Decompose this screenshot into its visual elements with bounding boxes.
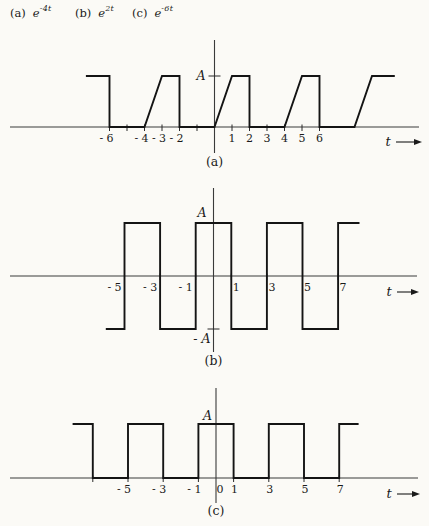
x-tick-label: 7 [337,483,344,496]
chart-a: A- 6- 4- 3- 2123456(a)t [10,40,422,169]
x-tick-label: 5 [304,281,311,294]
chart-b: A- A- 5- 3- 11357(b)t [10,188,419,368]
x-tick-label: 5 [302,483,309,496]
x-tick-label: 4 [281,132,288,145]
y-tick-label: - A [193,331,210,346]
x-axis-label: t [385,134,391,149]
chart-caption: (c) [208,503,225,518]
x-tick-label: - 3 [152,483,166,496]
x-axis-label: t [386,284,392,299]
y-tick-label: A [202,408,212,423]
x-tick-label: - 3 [143,281,157,294]
x-tick-label: 3 [266,483,273,496]
x-tick-label: - 3 [152,132,166,145]
x-axis-label: t [386,486,392,501]
x-tick-label: 0 [217,483,224,496]
chart-caption: (b) [205,353,223,368]
x-tick-label: 1 [233,281,240,294]
t-axis-arrowhead-icon [412,491,420,497]
x-tick-label: - 2 [169,132,183,145]
x-tick-label: - 1 [187,483,201,496]
t-axis-arrowhead-icon [414,139,422,145]
x-tick-label: 5 [299,132,306,145]
x-tick-label: 7 [340,281,347,294]
x-tick-label: - 4 [134,132,148,145]
waveform-charts: A- 6- 4- 3- 2123456(a)tA- A- 5- 3- 11357… [0,0,429,526]
x-tick-label: 2 [246,132,253,145]
x-tick-label: 1 [229,132,236,145]
x-tick-label: 3 [264,132,271,145]
waveform-a [86,76,395,127]
y-tick-label: A [195,68,205,83]
x-tick-label: - 5 [107,281,121,294]
x-tick-label: 6 [316,132,323,145]
x-tick-label: 3 [268,281,275,294]
chart-c: A- 5- 3- 101357(c)t [10,388,420,518]
x-tick-label: - 6 [99,132,113,145]
chart-caption: (a) [206,154,223,169]
x-tick-label: - 5 [117,483,131,496]
t-axis-arrowhead-icon [411,289,419,295]
x-tick-label: - 1 [179,281,193,294]
figure-page: (a)e-4t (b)e2t (c)e-6t A- 6- 4- 3- 21234… [0,0,429,526]
x-tick-label: 1 [231,483,238,496]
y-tick-label: A [196,205,206,220]
